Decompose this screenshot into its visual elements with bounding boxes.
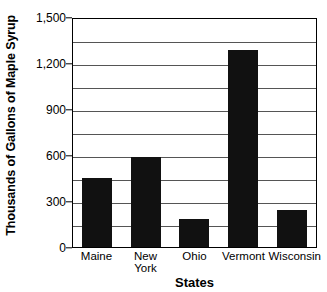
y-axis-title-text: Thousands of Gallons of Maple Syrup (5, 15, 18, 236)
bar (179, 219, 209, 247)
x-axis-title: States (72, 276, 317, 289)
bar (277, 210, 307, 247)
y-axis-tick-label: 1,500 (36, 12, 66, 24)
y-axis-tick-label: 300 (46, 196, 66, 208)
x-axis-tick-label: Maine (73, 251, 121, 263)
y-axis-tick-mark (66, 155, 72, 156)
y-axis-tick-label: 1,200 (36, 58, 66, 70)
plot-area (72, 18, 317, 248)
y-axis-tick-mark (66, 201, 72, 202)
y-axis-tick-mark (66, 109, 72, 110)
y-axis-title: Thousands of Gallons of Maple Syrup (0, 0, 22, 250)
x-axis-tick-label: Wisconsin (269, 251, 317, 263)
bars-layer (73, 19, 316, 247)
bar (228, 50, 258, 247)
bar-chart: Thousands of Gallons of Maple Syrup 1,50… (0, 0, 327, 292)
x-axis-tick-label: Vermont (220, 251, 268, 263)
y-axis-tick-mark (66, 17, 72, 18)
y-axis-tick-label: 600 (46, 150, 66, 162)
x-axis-tick-label: Ohio (171, 251, 219, 263)
y-axis-tick-mark (66, 247, 72, 248)
x-axis-tick-label: New York (122, 251, 170, 274)
y-axis-tick-mark (66, 63, 72, 64)
y-axis-tick-labels: 1,5001,2009006003000 (22, 0, 70, 292)
y-axis-tick-label: 0 (59, 242, 66, 254)
bar (131, 157, 161, 247)
y-axis-tick-label: 900 (46, 104, 66, 116)
bar (82, 178, 112, 247)
